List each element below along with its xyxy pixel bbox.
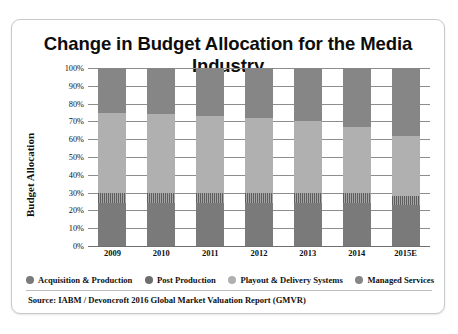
bar-2013[interactable] — [294, 68, 322, 246]
bar-segment — [196, 68, 224, 116]
gridline — [88, 246, 430, 247]
bar-segment — [196, 193, 224, 204]
bar-segment — [147, 203, 175, 246]
y-axis-tick-label: 20% — [50, 206, 84, 215]
x-axis-tick-label: 2014 — [335, 248, 379, 258]
bar-segment — [294, 121, 322, 192]
bar-segment — [98, 203, 126, 246]
bars-container — [88, 68, 430, 246]
legend-label: Managed Services — [367, 275, 434, 285]
y-axis-tick-label: 80% — [50, 99, 84, 108]
bar-segment — [147, 193, 175, 204]
legend-swatch-icon — [228, 276, 236, 284]
legend-item[interactable]: Acquisition & Production — [26, 275, 132, 285]
chart-legend: Acquisition & ProductionPost ProductionP… — [26, 272, 434, 288]
legend-item[interactable]: Managed Services — [355, 275, 434, 285]
y-axis-tick-label: 90% — [50, 81, 84, 90]
bar-segment — [245, 118, 273, 193]
bar-segment — [98, 193, 126, 204]
x-axis-tick-label: 2012 — [237, 248, 281, 258]
x-axis-tick-label: 2011 — [188, 248, 232, 258]
y-axis-tick-label: 0% — [50, 242, 84, 251]
bar-segment — [245, 193, 273, 204]
bar-2012[interactable] — [245, 68, 273, 246]
y-axis-tick-label: 100% — [50, 64, 84, 73]
chart-card: Change in Budget Allocation for the Medi… — [11, 19, 445, 314]
bar-segment — [343, 127, 371, 193]
bar-segment — [392, 205, 420, 246]
bar-segment — [147, 68, 175, 114]
legend-label: Playout & Delivery Systems — [240, 275, 342, 285]
legend-swatch-icon — [26, 276, 34, 284]
bar-2009[interactable] — [98, 68, 126, 246]
bar-segment — [294, 193, 322, 204]
bar-2011[interactable] — [196, 68, 224, 246]
y-axis-tick-label: 40% — [50, 170, 84, 179]
legend-label: Post Production — [157, 275, 216, 285]
x-axis-ticks: 2009201020112012201320142015E — [88, 248, 430, 264]
bar-segment — [98, 68, 126, 113]
bar-2010[interactable] — [147, 68, 175, 246]
y-axis-tick-label: 50% — [50, 153, 84, 162]
x-axis-tick-label: 2013 — [286, 248, 330, 258]
bar-segment — [245, 203, 273, 246]
bar-2015E[interactable] — [392, 68, 420, 246]
legend-item[interactable]: Post Production — [145, 275, 216, 285]
bar-2014[interactable] — [343, 68, 371, 246]
y-axis-tick-label: 10% — [50, 224, 84, 233]
y-axis-title: Budget Allocation — [24, 120, 36, 230]
y-axis-tick-label: 30% — [50, 188, 84, 197]
bar-segment — [343, 193, 371, 204]
bar-segment — [343, 68, 371, 127]
legend-label: Acquisition & Production — [38, 275, 132, 285]
legend-swatch-icon — [145, 276, 153, 284]
x-axis-tick-label: 2015E — [384, 248, 428, 258]
divider — [26, 290, 432, 291]
bar-segment — [343, 203, 371, 246]
bar-segment — [147, 114, 175, 192]
y-axis-ticks: 0%10%20%30%40%50%60%70%80%90%100% — [50, 68, 84, 246]
bar-segment — [98, 113, 126, 193]
bar-segment — [392, 68, 420, 136]
plot-area: Budget Allocation 0%10%20%30%40%50%60%70… — [28, 68, 430, 264]
x-axis-tick-label: 2010 — [139, 248, 183, 258]
bar-segment — [294, 68, 322, 121]
bar-segment — [245, 68, 273, 118]
bar-segment — [196, 116, 224, 193]
bar-segment — [196, 203, 224, 246]
bar-segment — [294, 203, 322, 246]
bar-segment — [392, 196, 420, 205]
legend-item[interactable]: Playout & Delivery Systems — [228, 275, 342, 285]
bar-segment — [392, 136, 420, 197]
legend-swatch-icon — [355, 276, 363, 284]
y-axis-tick-label: 60% — [50, 135, 84, 144]
y-axis-tick-label: 70% — [50, 117, 84, 126]
source-note: Source: IABM / Devoncroft 2016 Global Ma… — [28, 295, 306, 305]
x-axis-tick-label: 2009 — [90, 248, 134, 258]
